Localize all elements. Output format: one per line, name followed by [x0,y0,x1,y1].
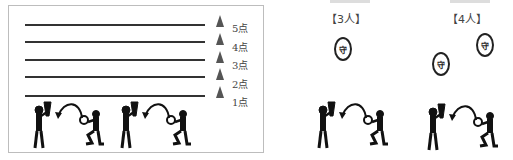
score-label-2: 2点 [232,80,248,90]
cone-icon [216,68,224,80]
throw-catch-pair-icon [115,98,195,150]
defender-label: 守 [339,44,347,55]
defender-marker: 守 [476,33,494,57]
cutoff-text-fragment [330,0,370,3]
score-label-5: 5点 [232,24,248,34]
group-label-4-people: 【4人】 [447,10,487,26]
cone-icon [216,86,224,98]
score-line-2 [25,76,205,78]
defender-marker: 守 [432,52,450,76]
cone-icon [216,15,224,27]
score-line-1 [25,95,205,97]
score-line-4 [25,41,205,43]
cone-icon [216,51,224,63]
score-label-4: 4点 [232,43,248,53]
score-line-5 [25,24,205,26]
cutoff-text-fragment [450,0,490,3]
cone-icon [216,33,224,45]
defender-label: 守 [481,40,489,51]
throw-catch-pair-icon [28,98,108,150]
score-line-3 [25,59,205,61]
throw-catch-pair-icon [422,100,502,152]
group-label-3-people: 【3人】 [326,10,366,26]
score-label-3: 3点 [232,61,248,71]
defender-label: 守 [437,59,445,70]
throw-catch-pair-icon [312,98,392,150]
defender-marker: 守 [334,37,352,61]
score-label-1: 1点 [232,98,248,108]
